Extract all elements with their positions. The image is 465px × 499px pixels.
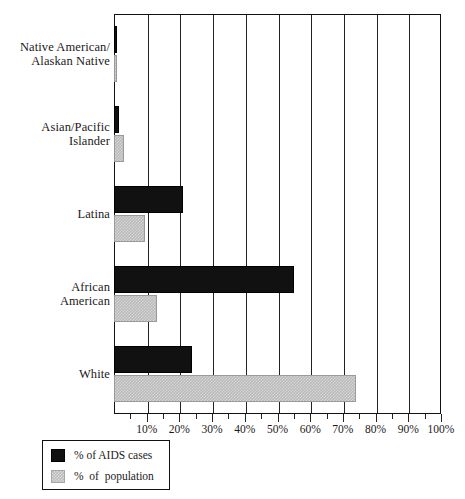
x-tick-35 — [228, 414, 229, 419]
category-label-line1: African — [2, 280, 110, 295]
bar-population-2 — [114, 215, 145, 242]
category-label-line1: Asian/Pacific — [2, 120, 110, 135]
x-tick-65 — [327, 414, 328, 419]
x-tick-75 — [359, 414, 360, 419]
bar-population-0 — [114, 55, 117, 82]
x-tick-label-10: 10% — [136, 423, 157, 436]
category-label-2: Latina — [2, 207, 110, 222]
legend-item-population: % of population — [51, 468, 154, 484]
x-tick-25 — [196, 414, 197, 419]
x-tick-10 — [147, 414, 148, 422]
x-tick-70 — [343, 414, 344, 422]
legend-swatch-population — [51, 470, 65, 483]
x-tick-label-20: 20% — [169, 423, 190, 436]
x-tick-85 — [392, 414, 393, 419]
x-tick-30 — [212, 414, 213, 422]
x-tick-5 — [130, 414, 131, 419]
category-label-line1: White — [2, 367, 110, 382]
x-tick-40 — [245, 414, 246, 422]
x-tick-95 — [425, 414, 426, 419]
category-label-line2: American — [2, 294, 110, 309]
x-tick-80 — [376, 414, 377, 422]
category-axis-labels: Native American/Alaskan NativeAsian/Paci… — [0, 14, 110, 414]
x-tick-45 — [261, 414, 262, 419]
x-tick-label-100: 100% — [428, 423, 455, 436]
legend: % of AIDS cases % of population — [42, 440, 170, 490]
bar-aids-cases-3 — [114, 266, 294, 293]
x-tick-100 — [441, 414, 442, 422]
bar-population-3 — [114, 295, 157, 322]
x-tick-50 — [278, 414, 279, 422]
x-tick-label-90: 90% — [398, 423, 419, 436]
x-tick-label-60: 60% — [300, 423, 321, 436]
bar-aids-cases-1 — [114, 106, 119, 133]
bar-population-1 — [114, 135, 124, 162]
category-label-line2: Alaskan Native — [2, 54, 110, 69]
x-tick-60 — [310, 414, 311, 422]
category-label-line1: Latina — [2, 207, 110, 222]
horizontal-bar-chart: Native American/Alaskan NativeAsian/Paci… — [0, 0, 465, 499]
legend-label-population: % of population — [74, 470, 154, 482]
legend-swatch-aids-cases — [51, 449, 65, 462]
legend-item-aids-cases: % of AIDS cases — [51, 447, 152, 463]
bar-aids-cases-2 — [114, 186, 183, 213]
x-tick-label-70: 70% — [332, 423, 353, 436]
legend-label-aids-cases: % of AIDS cases — [74, 449, 152, 461]
bars-layer — [114, 14, 441, 414]
x-tick-55 — [294, 414, 295, 419]
category-label-0: Native American/Alaskan Native — [2, 40, 110, 69]
category-label-3: AfricanAmerican — [2, 280, 110, 309]
x-tick-label-50: 50% — [267, 423, 288, 436]
bar-aids-cases-4 — [114, 346, 192, 373]
category-label-line1: Native American/ — [2, 40, 110, 55]
x-tick-label-40: 40% — [234, 423, 255, 436]
x-tick-20 — [179, 414, 180, 422]
x-tick-label-80: 80% — [365, 423, 386, 436]
bar-population-4 — [114, 375, 356, 402]
x-tick-label-30: 30% — [202, 423, 223, 436]
category-label-4: White — [2, 367, 110, 382]
x-axis: 10%20%30%40%50%60%70%80%90%100% — [114, 414, 441, 440]
x-tick-15 — [163, 414, 164, 419]
x-tick-90 — [408, 414, 409, 422]
category-label-1: Asian/PacificIslander — [2, 120, 110, 149]
bar-aids-cases-0 — [114, 26, 117, 53]
category-label-line2: Islander — [2, 134, 110, 149]
